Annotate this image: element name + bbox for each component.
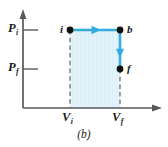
state-label-f: f (127, 63, 131, 74)
state-label-b: b (127, 24, 133, 35)
volume-axis-arrowhead (152, 105, 162, 112)
pi-subscript: i (16, 28, 18, 37)
vi-subscript: i (71, 117, 73, 126)
figure-caption: (b) (0, 128, 168, 140)
vi-symbol: V (62, 110, 70, 124)
work-area-shading (70, 30, 120, 108)
state-point-b (117, 27, 124, 34)
axis-tick-label-pi: Pi (8, 22, 18, 35)
vf-symbol: V (112, 110, 120, 124)
state-point-i (67, 27, 74, 34)
pf-symbol: P (8, 60, 16, 74)
pf-subscript: f (16, 67, 19, 76)
pv-diagram-canvas (0, 0, 168, 147)
state-label-i: i (60, 24, 63, 35)
state-point-f (117, 66, 124, 73)
pv-diagram-figure: Pi Pf Vi Vf i b f (b) (0, 0, 168, 147)
axis-tick-label-vi: Vi (62, 111, 73, 124)
axis-tick-label-pf: Pf (8, 61, 18, 74)
pi-symbol: P (8, 21, 16, 35)
pressure-axis-arrowhead (20, 9, 27, 19)
axis-tick-label-vf: Vf (112, 111, 123, 124)
vf-subscript: f (121, 117, 124, 126)
